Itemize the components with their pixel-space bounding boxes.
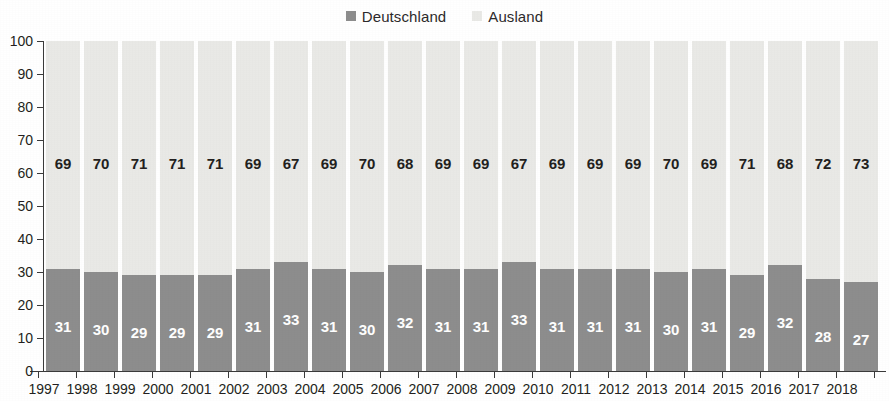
x-axis-tick (760, 371, 761, 378)
bar-segment-deutschland[interactable]: 30 (350, 272, 384, 371)
bar-segment-deutschland[interactable]: 33 (274, 262, 308, 371)
bar-segment-ausland[interactable]: 69 (578, 41, 612, 269)
bar-segment-ausland[interactable]: 67 (502, 41, 536, 262)
bar-segment-deutschland[interactable]: 31 (46, 269, 80, 371)
bar-value-ausland: 67 (274, 156, 308, 171)
x-axis-label: 2004 (291, 381, 329, 397)
bar-column[interactable]: 6931 (46, 41, 80, 371)
x-axis-label: 2017 (785, 381, 823, 397)
bar-column[interactable]: 6931 (578, 41, 612, 371)
bar-segment-deutschland[interactable]: 32 (388, 265, 422, 371)
bar-value-ausland: 71 (730, 156, 764, 171)
bar-value-ausland: 73 (844, 156, 878, 171)
x-axis-tick (380, 371, 381, 378)
bar-segment-deutschland[interactable]: 29 (198, 275, 232, 371)
bar-value-deutschland: 32 (768, 315, 802, 330)
bar-segment-ausland[interactable]: 71 (730, 41, 764, 275)
bar-column[interactable]: 6931 (312, 41, 346, 371)
bar-segment-ausland[interactable]: 69 (616, 41, 650, 269)
bar-segment-ausland[interactable]: 71 (122, 41, 156, 275)
y-axis-label: 30 (0, 265, 33, 279)
bar-segment-deutschland[interactable]: 29 (730, 275, 764, 371)
x-axis-label: 2016 (747, 381, 785, 397)
bar-segment-deutschland[interactable]: 31 (578, 269, 612, 371)
y-axis-label: 60 (0, 166, 33, 180)
bar-segment-deutschland[interactable]: 32 (768, 265, 802, 371)
bar-value-ausland: 68 (768, 156, 802, 171)
bar-column[interactable]: 6931 (426, 41, 460, 371)
bar-segment-deutschland[interactable]: 31 (692, 269, 726, 371)
x-axis-label: 2002 (215, 381, 253, 397)
bar-column[interactable]: 6733 (502, 41, 536, 371)
bar-segment-deutschland[interactable]: 30 (654, 272, 688, 371)
bar-column[interactable]: 7129 (122, 41, 156, 371)
bar-segment-ausland[interactable]: 73 (844, 41, 878, 282)
bar-segment-ausland[interactable]: 69 (46, 41, 80, 269)
bar-column[interactable]: 6931 (540, 41, 574, 371)
bar-segment-ausland[interactable]: 72 (806, 41, 840, 279)
bar-segment-deutschland[interactable]: 33 (502, 262, 536, 371)
bar-segment-ausland[interactable]: 71 (160, 41, 194, 275)
y-axis-label: 80 (0, 100, 33, 114)
x-axis-label: 2001 (177, 381, 215, 397)
x-axis-tick (266, 371, 267, 378)
bar-column[interactable]: 7030 (84, 41, 118, 371)
plot-area: 6931703071297129712969316733693170306832… (44, 41, 880, 371)
bar-segment-deutschland[interactable]: 27 (844, 282, 878, 371)
bar-column[interactable]: 7327 (844, 41, 878, 371)
x-axis-label: 2010 (519, 381, 557, 397)
bar-column[interactable]: 7030 (654, 41, 688, 371)
bar-segment-ausland[interactable]: 71 (198, 41, 232, 275)
bar-value-ausland: 71 (160, 156, 194, 171)
bar-column[interactable]: 6832 (768, 41, 802, 371)
bar-segment-deutschland[interactable]: 31 (312, 269, 346, 371)
bar-segment-deutschland[interactable]: 31 (236, 269, 270, 371)
bar-column[interactable]: 7228 (806, 41, 840, 371)
x-axis-label: 2008 (443, 381, 481, 397)
x-axis-tick (190, 371, 191, 378)
bar-value-deutschland: 27 (844, 332, 878, 347)
bar-column[interactable]: 7030 (350, 41, 384, 371)
bar-column[interactable]: 6733 (274, 41, 308, 371)
bar-column[interactable]: 6931 (464, 41, 498, 371)
bar-segment-deutschland[interactable]: 31 (426, 269, 460, 371)
stacked-bar-chart: Deutschland Ausland 01020304050607080901… (0, 0, 889, 401)
bar-segment-ausland[interactable]: 70 (350, 41, 384, 272)
legend-label-ausland: Ausland (488, 8, 543, 25)
bar-segment-deutschland[interactable]: 31 (540, 269, 574, 371)
bar-segment-ausland[interactable]: 70 (654, 41, 688, 272)
x-axis-label: 2013 (633, 381, 671, 397)
bar-value-ausland: 69 (540, 156, 574, 171)
bar-segment-ausland[interactable]: 69 (464, 41, 498, 269)
bar-value-ausland: 69 (578, 156, 612, 171)
x-axis-label: 2005 (329, 381, 367, 397)
bar-column[interactable]: 7129 (160, 41, 194, 371)
x-axis-tick (304, 371, 305, 378)
bar-column[interactable]: 6931 (616, 41, 650, 371)
bar-segment-deutschland[interactable]: 31 (464, 269, 498, 371)
bar-column[interactable]: 6832 (388, 41, 422, 371)
bar-segment-deutschland[interactable]: 30 (84, 272, 118, 371)
bar-segment-ausland[interactable]: 68 (768, 41, 802, 265)
bar-column[interactable]: 7129 (730, 41, 764, 371)
bar-column[interactable]: 7129 (198, 41, 232, 371)
bar-segment-deutschland[interactable]: 28 (806, 279, 840, 371)
legend-entry-deutschland: Deutschland (346, 8, 447, 25)
bar-segment-ausland[interactable]: 68 (388, 41, 422, 265)
bar-segment-deutschland[interactable]: 29 (122, 275, 156, 371)
bar-column[interactable]: 6931 (692, 41, 726, 371)
bar-segment-ausland[interactable]: 67 (274, 41, 308, 262)
bar-segment-ausland[interactable]: 69 (540, 41, 574, 269)
bar-segment-deutschland[interactable]: 29 (160, 275, 194, 371)
bar-value-ausland: 71 (198, 156, 232, 171)
bar-column[interactable]: 6931 (236, 41, 270, 371)
legend-entry-ausland: Ausland (472, 8, 543, 25)
x-axis-tick (608, 371, 609, 378)
bar-segment-deutschland[interactable]: 31 (616, 269, 650, 371)
bar-segment-ausland[interactable]: 69 (426, 41, 460, 269)
bar-segment-ausland[interactable]: 69 (692, 41, 726, 269)
bar-segment-ausland[interactable]: 69 (236, 41, 270, 269)
bar-segment-ausland[interactable]: 70 (84, 41, 118, 272)
bar-segment-ausland[interactable]: 69 (312, 41, 346, 269)
bar-value-deutschland: 30 (654, 322, 688, 337)
